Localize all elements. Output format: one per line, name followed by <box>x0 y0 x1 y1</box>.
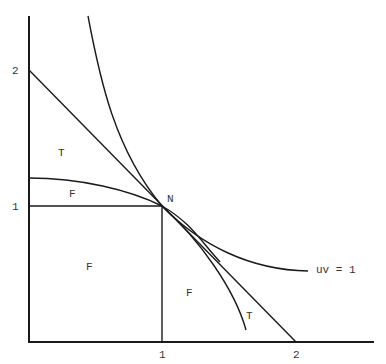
t-boundary-curve <box>162 206 246 330</box>
diagram-canvas: 2 1 1 2 N uv = 1 T F F F T <box>0 0 386 364</box>
curve-label: uv = 1 <box>316 264 356 276</box>
x-tick-1: 1 <box>159 349 166 361</box>
x-tick-2: 2 <box>293 349 300 361</box>
y-tick-2: 2 <box>12 65 19 77</box>
f-boundary-curve <box>29 178 220 262</box>
hyperbola-curve <box>88 16 308 271</box>
region-f-right: F <box>186 287 193 299</box>
region-f-upper: F <box>69 188 76 200</box>
region-t-lower: T <box>246 310 253 322</box>
y-tick-1: 1 <box>12 201 19 213</box>
region-f-square: F <box>86 261 93 273</box>
region-t-upper: T <box>58 147 65 159</box>
point-n-label: N <box>167 193 174 205</box>
unit-square <box>29 206 162 342</box>
axes <box>29 16 374 342</box>
